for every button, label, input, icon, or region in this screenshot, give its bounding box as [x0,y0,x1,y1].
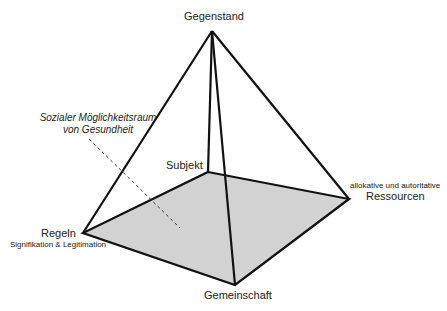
edge-apex-ressourcen [212,31,349,199]
label-gegenstand: Gegenstand [184,10,244,22]
label-regeln: Regeln [41,227,76,239]
label-regeln-sublabel: Signifikation & Legitimation [10,240,106,249]
label-ressourcen: Ressourcen [366,190,425,202]
edge-apex-subjekt [208,31,212,172]
label-gemeinschaft: Gemeinschaft [204,289,272,301]
pyramid-diagram [0,0,447,311]
base-plane [83,172,349,285]
annotation-label: Sozialer Möglichkeitsraum von Gesundheit [28,112,168,136]
annotation-line1: Sozialer Möglichkeitsraum [28,112,168,124]
label-ressourcen-sublabel: allokative und autoritative [350,181,440,190]
label-subjekt: Subjekt [166,159,203,171]
annotation-line2: von Gesundheit [28,124,168,136]
